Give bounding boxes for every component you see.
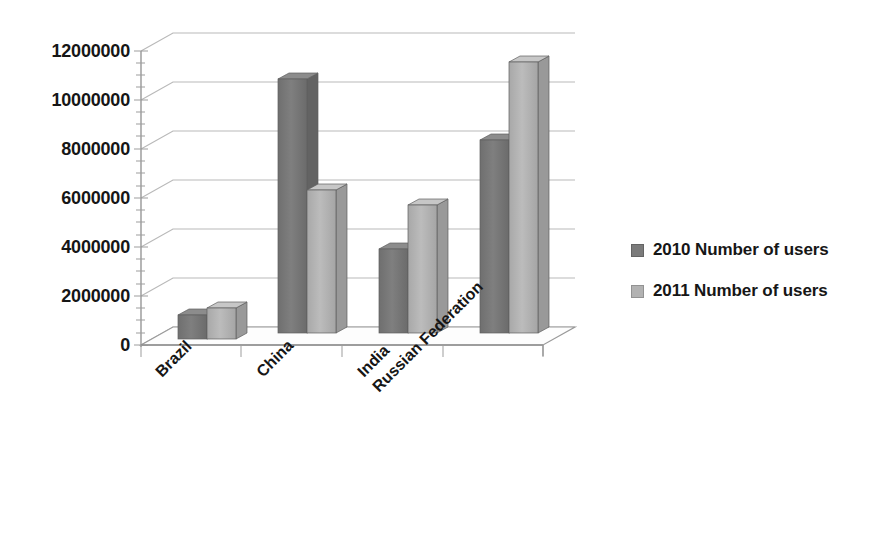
legend-item-2011[interactable]: 2011 Number of users [631,281,829,301]
y-tick-label: 12000000 [10,41,130,62]
legend-swatch-icon [631,285,644,298]
y-tick-label: 0 [10,335,130,356]
legend-label: 2010 Number of users [653,240,829,260]
y-tick-label: 10000000 [10,90,130,111]
bar-group-china [278,73,347,333]
bar-brazil-2011 [207,302,247,339]
legend-label: 2011 Number of users [653,281,828,301]
y-tick-label: 8000000 [10,139,130,160]
y-axis [134,51,148,347]
bar-china-2011 [307,184,347,333]
chart-container: 12000000 10000000 8000000 6000000 400000… [0,0,893,538]
chart-legend: 2010 Number of users 2011 Number of user… [631,240,829,322]
y-tick-label: 2000000 [10,286,130,307]
legend-item-2010[interactable]: 2010 Number of users [631,240,829,260]
legend-swatch-icon [631,244,644,257]
y-tick-label: 6000000 [10,188,130,209]
y-tick-label: 4000000 [10,237,130,258]
bar-group-brazil [178,302,247,339]
bar-russia-2011 [509,56,549,333]
bar-group-russian-federation [480,56,549,333]
